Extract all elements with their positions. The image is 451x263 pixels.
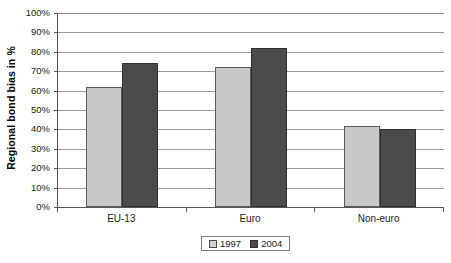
- legend-item-1997: 1997: [209, 239, 241, 249]
- y-axis-title-text: Regional bond bias in %: [5, 46, 17, 170]
- legend-swatch-1997-icon: [209, 240, 217, 248]
- bar-eu-13-1997: [86, 87, 122, 207]
- x-axis-category-labels: EU-13EuroNon-euro: [57, 212, 443, 228]
- y-tick-label: 60%: [31, 86, 50, 96]
- legend-label-1997: 1997: [220, 239, 241, 249]
- y-tick-label: 30%: [31, 144, 50, 154]
- y-tick-label: 20%: [31, 163, 50, 173]
- y-tick-label: 90%: [31, 27, 50, 37]
- regional-bond-bias-bar-chart: Regional bond bias in % 0%10%20%30%40%50…: [0, 0, 451, 263]
- x-category-label-non-euro: Non-euro: [358, 212, 400, 225]
- x-category-label-eu-13: EU-13: [107, 212, 135, 225]
- y-tick-label: 0%: [36, 202, 50, 212]
- bar-eu-13-2004: [122, 63, 158, 207]
- y-tick-label: 70%: [31, 66, 50, 76]
- y-axis-tick-labels: 0%10%20%30%40%50%60%70%80%90%100%: [18, 13, 54, 207]
- legend-item-2004: 2004: [250, 239, 282, 249]
- y-tick-label: 80%: [31, 47, 50, 57]
- y-tick-label: 40%: [31, 124, 50, 134]
- x-tick-mark: [443, 208, 444, 212]
- plot-area: [57, 13, 444, 208]
- y-tick-label: 50%: [31, 105, 50, 115]
- bars-layer: [58, 13, 444, 207]
- legend-swatch-2004-icon: [250, 240, 258, 248]
- bar-non-euro-2004: [380, 129, 416, 207]
- chart-legend: 1997 2004: [201, 236, 290, 251]
- bar-non-euro-1997: [344, 126, 380, 207]
- bar-euro-1997: [215, 67, 251, 207]
- bar-euro-2004: [251, 48, 287, 207]
- y-tick-label: 10%: [31, 183, 50, 193]
- y-tick-label: 100%: [26, 8, 50, 18]
- x-category-label-euro: Euro: [239, 212, 260, 225]
- legend-label-2004: 2004: [261, 239, 282, 249]
